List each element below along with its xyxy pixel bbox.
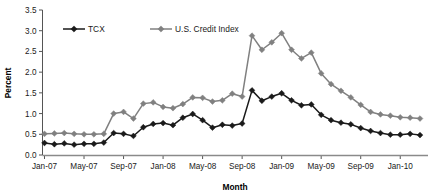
x-tick-label: May-09 <box>308 162 336 171</box>
x-tick-label: Sep-09 <box>348 162 375 171</box>
x-axis-title: Month <box>222 182 247 192</box>
y-tick-label: 2.5 <box>25 47 37 56</box>
y-axis-title: Percent <box>3 67 13 98</box>
x-tick-label: Sep-07 <box>110 162 137 171</box>
y-tick-label: 0.0 <box>25 151 37 160</box>
x-tick-label: Sep-08 <box>229 162 256 171</box>
chart-container: 0.00.51.01.52.02.53.03.5 Jan-07May-07Sep… <box>0 0 433 196</box>
y-tick-label: 3.5 <box>25 6 37 15</box>
x-tick-label: Jan-10 <box>388 162 413 171</box>
y-tick-label: 0.5 <box>25 130 37 139</box>
x-tick-label: Jan-09 <box>269 162 294 171</box>
y-tick-label: 1.0 <box>25 110 37 119</box>
x-tick-label: May-08 <box>189 162 217 171</box>
legend-label: U.S. Credit Index <box>175 24 240 34</box>
x-tick-label: Jan-07 <box>32 162 57 171</box>
x-tick-label: May-07 <box>70 162 98 171</box>
y-tick-label: 3.0 <box>25 27 37 36</box>
legend-label: TCX <box>88 24 105 34</box>
y-tick-label: 2.0 <box>25 68 37 77</box>
x-tick-label: Jan-08 <box>151 162 176 171</box>
y-tick-label: 1.5 <box>25 89 37 98</box>
line-chart: 0.00.51.01.52.02.53.03.5 Jan-07May-07Sep… <box>0 0 433 196</box>
